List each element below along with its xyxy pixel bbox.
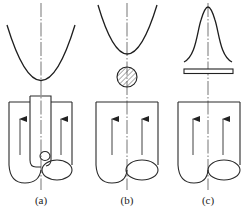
panel-b: (b) (96, 3, 158, 207)
right-lobe-c (208, 160, 240, 180)
parabola-profile-b (98, 5, 157, 54)
small-bubble-a (40, 152, 50, 161)
panel-label-b: (b) (121, 194, 134, 207)
diagram-canvas: (a) (b) (c) (0, 0, 249, 214)
panel-c: (c) (178, 3, 240, 207)
hatched-circle-b (117, 67, 137, 87)
right-lobe-a (42, 160, 72, 180)
panel-a: (a) (7, 3, 75, 207)
left-lobe-c (178, 165, 208, 183)
flat-plate-c (184, 69, 233, 74)
left-lobe-b (96, 165, 127, 183)
container-c (178, 102, 240, 165)
right-lobe-b (126, 160, 158, 180)
panel-label-a: (a) (35, 194, 48, 207)
panel-label-c: (c) (202, 194, 215, 207)
left-lobe-a (9, 165, 41, 183)
